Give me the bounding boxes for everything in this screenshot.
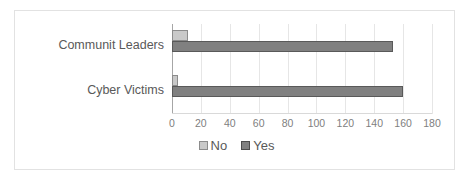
value-tick-label: 40 (224, 117, 236, 129)
bar-yes (172, 86, 403, 97)
legend-item-yes[interactable]: Yes (241, 138, 274, 153)
legend-swatch-icon (199, 141, 208, 150)
value-tick-label: 160 (394, 117, 412, 129)
bar-chart-figure: Communit LeadersCyber Victims 0204060801… (0, 0, 473, 183)
bar-yes (172, 41, 393, 52)
gridline (403, 24, 404, 114)
value-tick-label: 140 (365, 117, 383, 129)
value-tick-label: 0 (169, 117, 175, 129)
value-tick-label: 20 (195, 117, 207, 129)
legend-label: Yes (253, 138, 274, 153)
gridline (201, 24, 202, 114)
gridline (374, 24, 375, 114)
bar-no (172, 75, 178, 86)
value-tick-label: 80 (282, 117, 294, 129)
value-tick-label: 180 (423, 117, 441, 129)
gridline (316, 24, 317, 114)
gridline (288, 24, 289, 114)
category-label: Communit Leaders (14, 38, 164, 52)
gridline (230, 24, 231, 114)
gridline (345, 24, 346, 114)
value-tick-label: 60 (253, 117, 265, 129)
bar-no (172, 30, 188, 41)
category-axis-line (172, 113, 432, 114)
value-tick-label: 120 (337, 117, 355, 129)
legend-item-no[interactable]: No (199, 138, 228, 153)
gridline (432, 24, 433, 114)
category-label: Cyber Victims (14, 83, 164, 97)
legend-swatch-icon (241, 141, 250, 150)
chart-legend: NoYes (0, 138, 473, 153)
gridline (259, 24, 260, 114)
value-tick-label: 100 (308, 117, 326, 129)
legend-label: No (211, 138, 228, 153)
